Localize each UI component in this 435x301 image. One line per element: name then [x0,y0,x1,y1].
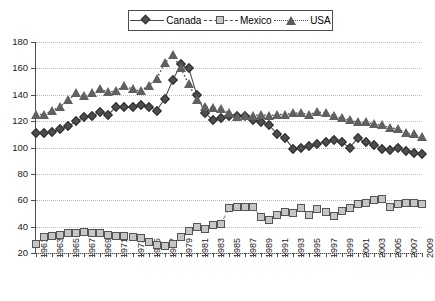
data-point-usa [176,63,186,72]
data-point-mexico [313,205,321,213]
x-tick [390,253,391,257]
data-point-usa [417,132,427,141]
x-tick-label: 2009 [426,238,435,258]
x-tick [36,253,37,257]
x-tick [133,253,134,257]
x-tick [326,253,327,257]
data-point-canada [168,75,178,85]
data-point-mexico [386,203,394,211]
data-point-mexico [305,211,313,219]
data-point-canada [63,121,73,131]
y-tick-label: 60 [0,195,28,205]
data-point-mexico [418,200,426,208]
x-tick [301,253,302,257]
data-point-mexico [137,234,145,242]
x-tick [317,253,318,257]
x-tick [165,253,166,257]
data-point-canada [329,135,339,145]
y-tick-label: 120 [0,116,28,126]
legend-label-canada: Canada [166,16,201,26]
x-tick [100,253,101,257]
data-point-mexico [169,240,177,248]
data-point-canada [280,133,290,143]
data-point-mexico [64,229,72,237]
data-point-mexico [193,223,201,231]
x-tick [422,253,423,257]
legend-marker-mexico [204,15,238,27]
data-point-mexico [225,204,233,212]
x-tick [245,253,246,257]
x-tick [334,253,335,257]
x-tick [358,253,359,257]
y-tick-label: 160 [0,63,28,73]
data-point-mexico [145,238,153,246]
y-tick-label: 140 [0,90,28,100]
data-point-mexico [88,229,96,237]
x-tick [141,253,142,257]
data-point-mexico [249,203,257,211]
data-point-mexico [289,209,297,217]
data-point-usa [160,58,170,67]
x-tick [293,253,294,257]
x-tick [229,253,230,257]
x-tick [181,253,182,257]
data-point-mexico [177,233,185,241]
y-tick-label: 20 [0,248,28,258]
data-point-mexico [56,231,64,239]
x-tick [221,253,222,257]
y-tick-label: 40 [0,222,28,232]
data-point-mexico [346,204,354,212]
x-tick [309,253,310,257]
x-tick [374,253,375,257]
data-point-canada [417,149,427,159]
data-point-mexico [354,200,362,208]
x-tick [398,253,399,257]
data-point-mexico [297,204,305,212]
legend-marker-usa [274,15,308,27]
data-point-mexico [394,200,402,208]
data-point-mexico [209,221,217,229]
x-tick [342,253,343,257]
x-tick [406,253,407,257]
data-point-mexico [265,216,273,224]
data-point-mexico [233,203,241,211]
gridline [36,68,422,69]
data-point-mexico [129,233,137,241]
legend-item-mexico[interactable]: Mexico [204,11,272,30]
x-tick [157,253,158,257]
gridline [36,227,422,228]
x-tick [60,253,61,257]
x-tick [173,253,174,257]
data-point-mexico [112,232,120,240]
x-tick [366,253,367,257]
data-point-usa [152,74,162,83]
y-tick-label: 100 [0,143,28,153]
data-point-mexico [104,231,112,239]
x-tick [197,253,198,257]
x-tick [350,253,351,257]
data-point-mexico [201,225,209,233]
legend-item-canada[interactable]: Canada [130,11,201,30]
data-point-mexico [410,199,418,207]
legend-item-usa[interactable]: USA [274,11,331,30]
gridline [36,148,422,149]
data-point-mexico [330,212,338,220]
data-point-canada [345,143,355,153]
data-point-mexico [273,211,281,219]
data-point-mexico [378,195,386,203]
x-tick [277,253,278,257]
data-point-mexico [48,232,56,240]
data-point-mexico [96,229,104,237]
x-tick [149,253,150,257]
x-tick [68,253,69,257]
data-point-mexico [217,220,225,228]
data-point-usa [184,79,194,88]
x-tick [261,253,262,257]
data-point-mexico [338,207,346,215]
data-point-mexico [322,208,330,216]
x-tick [44,253,45,257]
x-tick [189,253,190,257]
x-tick [205,253,206,257]
x-tick [92,253,93,257]
